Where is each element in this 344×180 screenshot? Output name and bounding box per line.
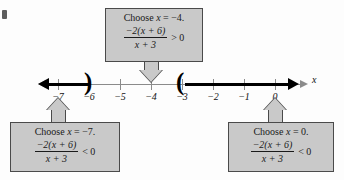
callout-test-point-minus-7[interactable]: Choose x = −7. −2(x + 6) x + 3 < 0 <box>10 122 120 172</box>
figure-canvas: x −7 −6 −5 −4 −3 −2 −1 0 ) ( Choos <box>0 0 344 180</box>
callout-bottom-left-relation: < 0 <box>82 146 95 157</box>
callout-bottom-right-fraction: −2(x + 6) x + 3 <box>251 139 295 164</box>
callout-test-point-minus-4[interactable]: Choose x = −4. −2(x + 6) x + 3 > 0 <box>105 8 203 62</box>
pointer-head-bottom-left-icon <box>47 98 69 110</box>
callout-top-fraction-bar <box>124 37 168 38</box>
callout-bottom-left-choose-text: Choose <box>35 126 68 137</box>
callout-bottom-right-headline: Choose x = 0. <box>235 126 327 138</box>
callout-bottom-left-expression: −2(x + 6) x + 3 < 0 <box>17 139 113 164</box>
axis-label-x: x <box>312 74 316 85</box>
tick-label-minus-5: −5 <box>109 91 131 102</box>
callout-bottom-left-numerator: −2(x + 6) <box>35 139 79 150</box>
callout-top-denominator: x + 3 <box>133 39 158 50</box>
callout-bottom-right-numerator: −2(x + 6) <box>251 139 295 150</box>
callout-bottom-left-headline: Choose x = −7. <box>17 126 113 138</box>
tick-minus-5 <box>120 79 121 90</box>
interval-bracket-close-at-minus-6: ) <box>84 69 92 94</box>
callout-bottom-right-choose-text: Choose <box>253 126 286 137</box>
tick-label-minus-2: −2 <box>202 91 224 102</box>
callout-top-fraction: −2(x + 6) x + 3 <box>124 25 168 50</box>
callout-top-expression: −2(x + 6) x + 3 > 0 <box>112 25 196 50</box>
axis-arrowhead-right-icon <box>300 80 308 88</box>
solution-ray-right-arrowhead-icon <box>288 78 299 90</box>
callout-bottom-right-fraction-bar <box>251 151 295 152</box>
callout-bottom-right-value: = 0. <box>290 126 308 137</box>
callout-bottom-left-fraction: −2(x + 6) x + 3 <box>35 139 79 164</box>
callout-top-headline: Choose x = −4. <box>112 12 196 24</box>
callout-top-numerator: −2(x + 6) <box>124 25 168 36</box>
tick-label-minus-1: −1 <box>233 91 255 102</box>
callout-top-value: = −4. <box>161 12 185 23</box>
callout-bottom-right-relation: < 0 <box>298 146 311 157</box>
callout-top-choose-text: Choose <box>124 12 157 23</box>
callout-bottom-right-denominator: x + 3 <box>260 153 285 164</box>
pointer-head-top-icon <box>140 70 162 82</box>
callout-bottom-right-expression: −2(x + 6) x + 3 < 0 <box>235 139 327 164</box>
tick-label-minus-4: −4 <box>140 91 162 102</box>
callout-top-relation: > 0 <box>171 32 184 43</box>
callout-bottom-left-value: = −7. <box>72 126 96 137</box>
callout-bottom-left-fraction-bar <box>35 151 79 152</box>
interval-bracket-open-at-minus-3: ( <box>176 69 184 94</box>
solution-ray-right <box>185 83 289 86</box>
page-scan-artifact <box>2 10 7 19</box>
callout-test-point-zero[interactable]: Choose x = 0. −2(x + 6) x + 3 < 0 <box>228 122 334 172</box>
callout-bottom-left-denominator: x + 3 <box>44 153 69 164</box>
pointer-head-bottom-right-icon <box>264 98 286 110</box>
